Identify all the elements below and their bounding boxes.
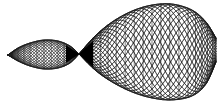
mesh-plot-svg (0, 0, 222, 107)
wireframe-figure: Wireframe mesh surface Figure-eight wire… (0, 0, 222, 107)
